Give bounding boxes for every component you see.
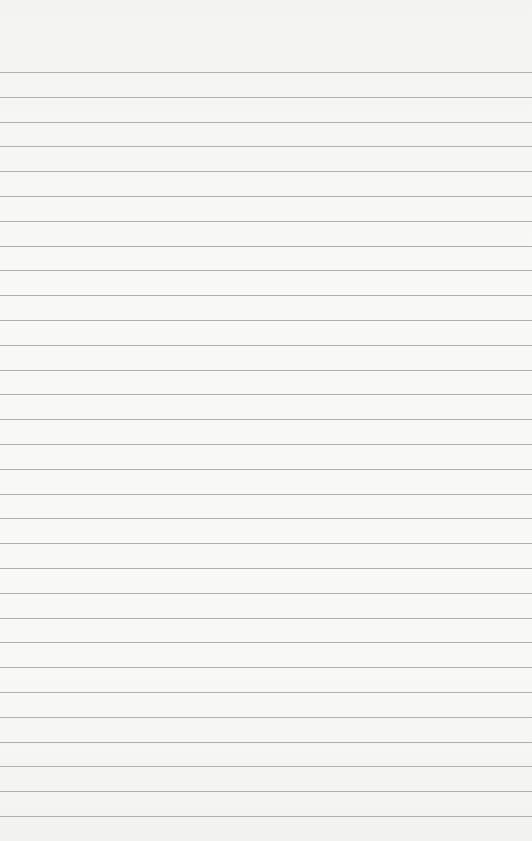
ruled-line — [0, 618, 532, 619]
ruled-line — [0, 469, 532, 470]
ruled-line — [0, 97, 532, 98]
ruled-line — [0, 543, 532, 544]
ruled-line — [0, 717, 532, 718]
ruled-line — [0, 816, 532, 817]
ruled-line — [0, 370, 532, 371]
ruled-line — [0, 146, 532, 147]
ruled-line — [0, 642, 532, 643]
ruled-line — [0, 692, 532, 693]
ruled-line — [0, 394, 532, 395]
ruled-line — [0, 171, 532, 172]
ruled-line — [0, 667, 532, 668]
lined-paper — [0, 0, 532, 841]
ruled-line — [0, 345, 532, 346]
ruled-line — [0, 444, 532, 445]
ruled-line — [0, 246, 532, 247]
ruled-line — [0, 270, 532, 271]
ruled-line — [0, 320, 532, 321]
ruled-line — [0, 791, 532, 792]
ruled-line — [0, 295, 532, 296]
ruled-line — [0, 196, 532, 197]
ruled-line — [0, 494, 532, 495]
ruled-line — [0, 742, 532, 743]
ruled-line — [0, 518, 532, 519]
ruled-line — [0, 766, 532, 767]
ruled-line — [0, 419, 532, 420]
ruled-line — [0, 72, 532, 73]
ruled-line — [0, 221, 532, 222]
ruled-line — [0, 122, 532, 123]
ruled-line — [0, 593, 532, 594]
ruled-line — [0, 568, 532, 569]
